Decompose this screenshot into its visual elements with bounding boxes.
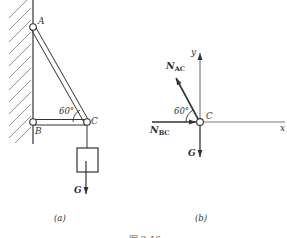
force-nbc-sub: BC <box>159 129 170 137</box>
angle-label-a: 60° <box>59 106 74 116</box>
force-nac-main: N <box>165 60 175 71</box>
pin-b <box>30 119 37 126</box>
figure-caption: 图 2-16 <box>129 235 161 238</box>
y-axis-label: y <box>190 47 197 57</box>
label-c: C <box>91 116 98 126</box>
weight-box <box>77 148 98 172</box>
pin-c <box>84 119 91 126</box>
angle-label-b: 60° <box>174 106 189 116</box>
x-axis-label: x <box>280 123 285 133</box>
panel-a: A B C 60° G (a) <box>9 0 98 223</box>
force-nac-label: NAC <box>165 60 185 73</box>
panel-a-caption: (a) <box>54 213 66 223</box>
rod-bc <box>33 120 87 126</box>
label-a: A <box>37 16 45 26</box>
force-g-label: G <box>188 148 196 158</box>
figure: A B C 60° G (a) y x C 60° NAC NBC G <box>0 0 287 238</box>
panel-b: y x C 60° NAC NBC G (b) <box>149 47 285 223</box>
wall-hatching <box>9 0 31 143</box>
force-nac-sub: AC <box>174 65 185 73</box>
panel-b-caption: (b) <box>195 213 207 223</box>
label-c-b: C <box>206 111 213 121</box>
force-nbc-main: N <box>149 124 159 135</box>
pin-a <box>30 24 37 31</box>
node-c <box>197 119 204 126</box>
force-nbc-label: NBC <box>149 124 169 137</box>
label-b: B <box>34 126 42 136</box>
load-label: G <box>74 185 82 195</box>
